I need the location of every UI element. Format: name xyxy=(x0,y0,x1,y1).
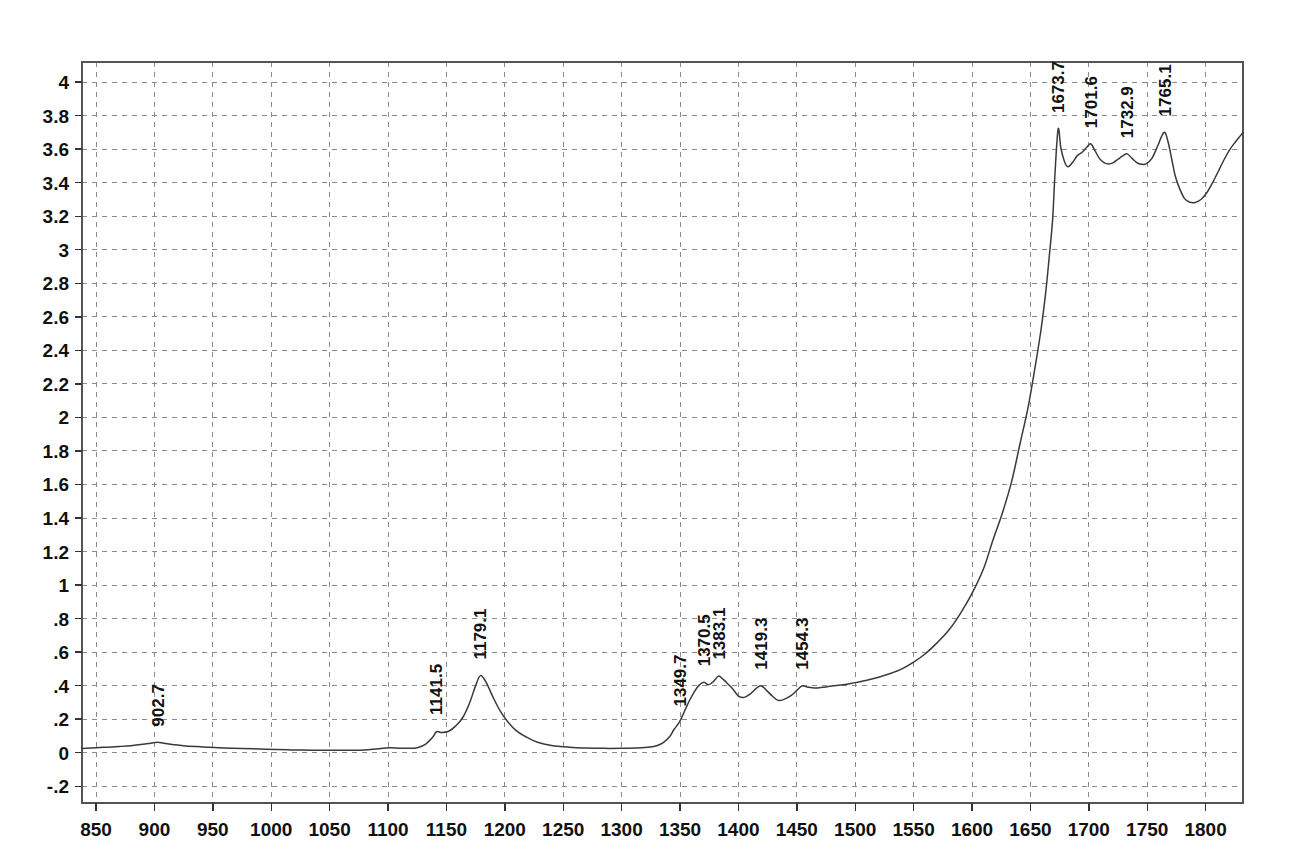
y-tick-label: 0 xyxy=(58,743,69,764)
x-tick-label: 1550 xyxy=(892,819,934,840)
spectrum-chart-canvas: -.20.2.4.6.811.21.41.61.822.22.42.62.833… xyxy=(0,0,1297,867)
peak-annotation: 1383.1 xyxy=(710,608,729,660)
peak-annotation-label: 1673.7 xyxy=(1049,61,1068,113)
x-tick-label: 1350 xyxy=(659,819,701,840)
x-tick-label: 1200 xyxy=(484,819,526,840)
y-tick-label: 1.2 xyxy=(43,542,69,563)
y-tick-label: 1 xyxy=(58,575,69,596)
y-tick-label: 2.6 xyxy=(43,307,69,328)
y-tick-label: .4 xyxy=(53,676,69,697)
y-tick-label: 2.8 xyxy=(43,273,69,294)
y-tick-label: 3.6 xyxy=(43,139,69,160)
y-tick-label: 3.4 xyxy=(43,173,70,194)
x-tick-label: 1050 xyxy=(308,819,350,840)
y-tick-label: 3 xyxy=(58,240,69,261)
y-tick-label: .8 xyxy=(53,609,69,630)
x-tick-label: 950 xyxy=(197,819,229,840)
peak-annotation: 1765.1 xyxy=(1156,64,1175,116)
peak-annotation-label: 1179.1 xyxy=(471,609,490,660)
y-tick-label: .6 xyxy=(53,642,69,663)
peak-annotation-label: 1419.3 xyxy=(752,618,771,670)
peak-annotation: 1732.9 xyxy=(1118,86,1137,138)
peak-annotation-label: 902.7 xyxy=(149,684,168,727)
peak-annotation-label: 1732.9 xyxy=(1118,86,1137,138)
y-tick-label: 1.6 xyxy=(43,474,69,495)
ir-spectrum-figure: -.20.2.4.6.811.21.41.61.822.22.42.62.833… xyxy=(0,0,1297,867)
y-tick-label: 3.2 xyxy=(43,206,69,227)
plot-background xyxy=(0,0,1297,867)
peak-annotation: 1419.3 xyxy=(752,618,771,670)
peak-annotation: 1179.1 xyxy=(471,609,490,660)
x-tick-label: 1650 xyxy=(1009,819,1051,840)
y-tick-label: 3.8 xyxy=(43,106,69,127)
y-tick-label: 1.4 xyxy=(43,508,70,529)
y-tick-label: 1.8 xyxy=(43,441,69,462)
y-tick-label: 4 xyxy=(58,72,69,93)
x-tick-label: 900 xyxy=(139,819,171,840)
x-tick-label: 1000 xyxy=(250,819,292,840)
peak-annotation-label: 1141.5 xyxy=(427,664,446,715)
peak-annotation: 902.7 xyxy=(149,684,168,727)
peak-annotation-label: 1349.7 xyxy=(671,655,690,707)
x-tick-label: 1400 xyxy=(717,819,759,840)
peak-annotation: 1349.7 xyxy=(671,655,690,707)
peak-annotation-label: 1765.1 xyxy=(1156,64,1175,116)
peak-annotation: 1673.7 xyxy=(1049,61,1068,113)
x-tick-label: 1800 xyxy=(1184,819,1226,840)
x-tick-label: 1500 xyxy=(834,819,876,840)
x-tick-label: 850 xyxy=(80,819,112,840)
peak-annotation-label: 1701.6 xyxy=(1082,76,1101,128)
peak-annotation: 1141.5 xyxy=(427,664,446,715)
x-tick-label: 1300 xyxy=(600,819,642,840)
peak-annotation-label: 1383.1 xyxy=(710,608,729,660)
y-tick-label: .2 xyxy=(53,709,69,730)
x-tick-label: 1250 xyxy=(542,819,584,840)
x-tick-label: 1450 xyxy=(776,819,818,840)
y-tick-label: 2 xyxy=(58,407,69,428)
x-tick-label: 1750 xyxy=(1126,819,1168,840)
peak-annotation-label: 1454.3 xyxy=(793,618,812,670)
x-tick-label: 1700 xyxy=(1068,819,1110,840)
y-tick-label: 2.4 xyxy=(43,340,70,361)
peak-annotation: 1701.6 xyxy=(1082,76,1101,128)
x-tick-label: 1150 xyxy=(426,819,467,840)
peak-annotation: 1454.3 xyxy=(793,618,812,670)
x-tick-label: 1100 xyxy=(367,819,408,840)
y-tick-label: 2.2 xyxy=(43,374,69,395)
y-tick-label: -.2 xyxy=(47,776,69,797)
x-tick-label: 1600 xyxy=(951,819,993,840)
